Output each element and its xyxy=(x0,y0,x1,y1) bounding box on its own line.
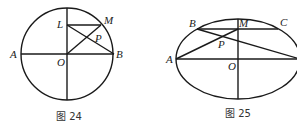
label-O: O xyxy=(57,56,65,68)
caption-figure-25: 图 25 xyxy=(225,108,251,119)
label-B: B xyxy=(189,17,196,29)
label-C: C xyxy=(280,16,288,28)
line-B-to-right-vertex xyxy=(197,29,297,59)
line-LB xyxy=(67,25,114,54)
label-A: A xyxy=(165,53,173,65)
label-O: O xyxy=(228,60,236,72)
figure-25: A B C M O P 图 25 xyxy=(165,16,297,119)
label-A: A xyxy=(9,48,17,60)
label-M: M xyxy=(103,14,114,26)
label-P: P xyxy=(217,38,225,50)
diagram-canvas: A B O L M P 图 24 A B C M O P 图 25 xyxy=(0,0,297,130)
figure-24: A B O L M P 图 24 xyxy=(9,8,123,122)
caption-figure-24: 图 24 xyxy=(56,111,82,122)
label-P: P xyxy=(94,32,102,44)
label-L: L xyxy=(56,18,63,30)
label-M: M xyxy=(238,17,249,29)
line-AM xyxy=(176,29,238,59)
label-B: B xyxy=(116,48,123,60)
